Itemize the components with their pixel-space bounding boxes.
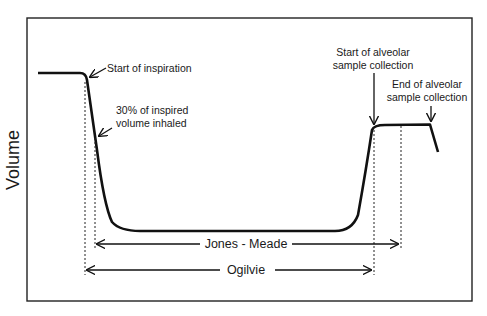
label-start-inspiration: Start of inspiration — [107, 62, 192, 74]
arrow-thirty-pct — [99, 128, 112, 136]
label-thirty-pct-line1: 30% of inspired — [116, 104, 189, 116]
label-thirty-pct-line2: volume inhaled — [116, 117, 187, 129]
arrow-start-inspiration — [90, 68, 106, 77]
y-axis-label: Volume — [3, 130, 23, 190]
ogilvie-label: Ogilvie — [227, 263, 265, 277]
diagram-canvas: Volume Start of inspiration 30% of inspi… — [0, 0, 487, 316]
label-end-alveolar-line1: End of alveolar — [392, 78, 463, 90]
label-start-alveolar-line1: Start of alveolar — [336, 46, 410, 58]
label-end-alveolar-line2: sample collection — [387, 91, 468, 103]
jones-meade-label: Jones - Meade — [205, 237, 288, 251]
volume-trace — [38, 73, 438, 231]
label-start-alveolar-line2: sample collection — [333, 59, 414, 71]
